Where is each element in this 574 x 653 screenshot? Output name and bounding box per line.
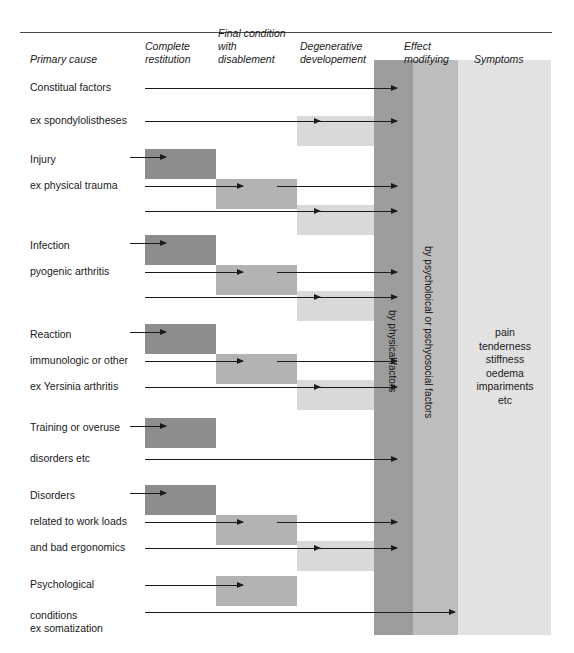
- arrow-training-to-effect: [330, 459, 397, 460]
- box-physical-trauma-final-condition: [216, 179, 297, 209]
- box-reaction-complete-restitution: [145, 324, 216, 354]
- arrow-work-loads-to-effect: [277, 522, 397, 523]
- arrow-training-to-restitution: [130, 426, 166, 427]
- box-injury-degenerative: [297, 205, 374, 235]
- column-header-primary-cause: Primary cause: [30, 53, 135, 66]
- arrow-reaction-to-restitution: [130, 332, 166, 333]
- row-label-disorders-etc: disorders etc: [30, 452, 90, 465]
- row-label-ex-spondylolistheses: ex spondylolistheses: [30, 114, 127, 127]
- arrow-spondylolistheses-to-degenerative: [145, 121, 320, 122]
- arrow-bad-ergonomics-to-degenerative: [145, 548, 320, 549]
- band-psychosocial-factors: [413, 60, 458, 635]
- row-label-reaction: Reaction: [30, 328, 71, 341]
- row-label-related-to-work-loads: related to work loads: [30, 515, 127, 528]
- column-header-complete-restitution: Complete restitution: [145, 40, 220, 66]
- pathway-diagram: Primary cause Complete restitution Final…: [0, 0, 574, 653]
- box-injury-complete-restitution: [145, 149, 216, 179]
- column-header-degenerative-development: Degenerative developement: [300, 40, 388, 66]
- row-label-disorders: Disorders: [30, 489, 75, 502]
- arrow-immunologic-to-effect: [277, 361, 397, 362]
- box-infection-degenerative: [297, 291, 374, 321]
- row-label-ex-physical-trauma: ex physical trauma: [30, 179, 118, 192]
- box-disorders-complete-restitution: [145, 485, 216, 515]
- band-caption-psychosocial-factors: by psycholoical or pschyosocial factors: [423, 246, 434, 418]
- symptoms-list: pain tenderness stiffness oedema imparim…: [462, 326, 548, 407]
- arrow-constitual-to-effect: [330, 88, 397, 89]
- box-work-loads-final-condition: [216, 515, 297, 545]
- arrow-pyogenic-arthritis-to-effect: [277, 272, 397, 273]
- row-label-psychological-conditions: conditions ex somatization: [30, 609, 103, 635]
- arrow-spondylolistheses-to-effect: [320, 121, 397, 122]
- box-psychological-final-condition: [216, 576, 297, 606]
- row-label-pyogenic-arthritis: pyogenic arthritis: [30, 265, 109, 278]
- box-training-complete-restitution: [145, 418, 216, 448]
- box-bad-ergonomics-degenerative: [297, 541, 374, 571]
- arrow-work-loads-to-final-condition: [145, 522, 243, 523]
- row-label-psychological: Psychological: [30, 578, 94, 591]
- arrow-physical-trauma-to-effect: [277, 186, 397, 187]
- row-label-training-or-overuse: Training or overuse: [30, 421, 120, 434]
- column-header-effect-modifying: Effect modifying: [404, 40, 466, 66]
- arrow-psychological-to-effect: [370, 612, 455, 613]
- row-label-and-bad-ergonomics: and bad ergonomics: [30, 541, 125, 554]
- arrow-bad-ergonomics-to-effect: [320, 548, 397, 549]
- arrow-immunologic-to-final-condition: [145, 361, 243, 362]
- row-label-ex-yersinia-arthritis: ex Yersinia arthritis: [30, 380, 118, 393]
- row-label-immunologic-or-other: immunologic or other: [30, 354, 128, 367]
- arrow-infection-to-degenerative: [145, 297, 320, 298]
- arrow-infection-degenerative-to-effect: [320, 297, 397, 298]
- arrow-injury-to-degenerative: [145, 211, 320, 212]
- arrow-injury-to-restitution: [130, 157, 166, 158]
- arrow-psychological-to-effect-line: [145, 612, 407, 613]
- arrow-infection-to-restitution: [130, 243, 166, 244]
- row-label-injury: Injury: [30, 153, 56, 166]
- box-yersinia-degenerative: [297, 380, 374, 410]
- column-header-final-condition: Final condition with disablement: [218, 27, 300, 66]
- column-header-symptoms: Symptoms: [474, 53, 544, 66]
- row-label-constitual-factors: Constitual factors: [30, 81, 111, 94]
- arrow-yersinia-to-effect: [320, 387, 397, 388]
- arrow-disorders-to-restitution: [130, 493, 166, 494]
- arrow-yersinia-to-degenerative: [145, 387, 320, 388]
- arrow-pyogenic-arthritis-to-final-condition: [145, 272, 243, 273]
- band-caption-physical-factors: by physical factors: [387, 310, 398, 392]
- box-infection-complete-restitution: [145, 235, 216, 265]
- arrow-physical-trauma-to-final-condition: [145, 186, 243, 187]
- arrow-psychological-to-final-condition: [145, 585, 243, 586]
- box-immunologic-final-condition: [216, 354, 297, 384]
- row-label-infection: Infection: [30, 239, 70, 252]
- arrow-injury-degenerative-to-effect: [320, 211, 397, 212]
- box-pyogenic-arthritis-final-condition: [216, 265, 297, 295]
